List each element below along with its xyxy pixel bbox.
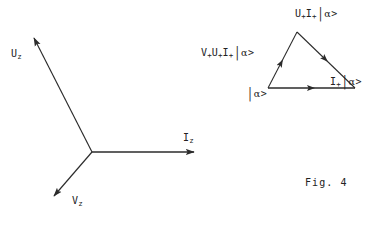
- ket-gt-icon: >: [248, 47, 254, 58]
- axis-label-vz-sub: z: [78, 199, 83, 208]
- vector-vz-line: [54, 152, 92, 196]
- ket-bar-icon: |: [318, 7, 324, 21]
- alpha-glyph: α: [324, 8, 331, 19]
- axis-label-uz: Uz: [11, 49, 22, 61]
- alpha-glyph: α: [348, 76, 355, 87]
- figure-page: Uz Iz Vz U+I+|α> V+U+I+|α> I+|α> |α> Fig…: [0, 0, 388, 232]
- triangle-label-left: V+U+I+|α>: [201, 48, 254, 60]
- ket-bar-icon: |: [234, 46, 240, 60]
- axis-label-vz: Vz: [72, 196, 83, 208]
- apex-ket: |α>: [317, 8, 338, 19]
- alpha-glyph: α: [254, 88, 261, 99]
- figure-drawing: [0, 0, 388, 232]
- figure-caption: Fig. 4: [305, 177, 348, 188]
- axis-label-iz-sub: z: [189, 136, 194, 145]
- bottom-ket: |α>: [246, 88, 267, 99]
- apex-term-2-sub: +: [312, 12, 317, 21]
- axis-label-uz-sub: z: [17, 52, 22, 61]
- triangle-label-apex: U+I+|α>: [295, 9, 338, 21]
- vector-uz-line: [34, 38, 92, 152]
- axes-group: [34, 38, 194, 196]
- triangle-label-right: I+|α>: [330, 77, 362, 89]
- ket-bar-icon: |: [247, 87, 253, 101]
- ket-bar-icon: |: [342, 75, 348, 89]
- ket-gt-icon: >: [331, 8, 337, 19]
- alpha-glyph: α: [241, 47, 248, 58]
- left-ket: |α>: [233, 47, 254, 58]
- triangle-edge-left: [268, 32, 297, 88]
- ket-gt-icon: >: [261, 88, 267, 99]
- ket-gt-icon: >: [356, 76, 362, 87]
- axis-label-iz: Iz: [183, 133, 194, 145]
- triangle-label-bottom: |α>: [246, 89, 267, 99]
- right-ket: |α>: [341, 76, 362, 87]
